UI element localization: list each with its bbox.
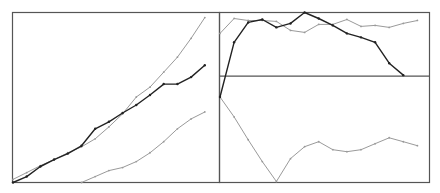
data-point-marker — [402, 141, 404, 143]
data-point-marker — [12, 181, 14, 183]
data-point-marker — [374, 143, 376, 145]
data-point-marker — [108, 170, 110, 172]
data-point-marker — [346, 151, 348, 153]
data-point-marker — [388, 137, 390, 139]
data-point-marker — [261, 18, 263, 20]
data-point-marker — [177, 56, 179, 58]
series-light-lower-line — [82, 112, 205, 183]
data-point-marker — [276, 21, 278, 23]
data-point-marker — [290, 29, 292, 31]
data-point-marker — [163, 71, 165, 73]
data-point-marker — [12, 179, 14, 181]
data-point-marker — [190, 37, 192, 39]
data-point-marker — [388, 27, 390, 29]
data-point-marker — [53, 158, 55, 160]
data-point-marker — [26, 175, 28, 177]
data-point-marker — [39, 165, 41, 167]
right-panel — [219, 11, 430, 182]
data-point-marker — [417, 145, 419, 147]
data-point-marker — [81, 182, 83, 184]
data-point-marker — [190, 76, 192, 78]
data-point-marker — [80, 145, 82, 147]
data-point-marker — [388, 62, 390, 64]
data-point-marker — [402, 23, 404, 25]
data-point-marker — [108, 121, 110, 123]
data-point-marker — [108, 126, 110, 128]
data-point-marker — [149, 86, 151, 88]
data-point-marker — [261, 161, 263, 163]
data-point-marker — [360, 36, 362, 38]
data-point-marker — [290, 158, 292, 160]
chart-container — [0, 0, 440, 193]
plot-frame — [220, 13, 430, 183]
data-point-marker — [135, 104, 137, 106]
data-point-marker — [149, 94, 151, 96]
data-point-marker — [26, 172, 28, 174]
series-light-lower-line — [220, 97, 417, 182]
data-point-marker — [247, 20, 249, 22]
left-panel — [12, 13, 220, 184]
data-point-marker — [360, 26, 362, 28]
data-point-marker — [332, 24, 334, 26]
data-point-marker — [318, 24, 320, 26]
data-point-marker — [204, 111, 206, 113]
data-point-marker — [233, 41, 235, 43]
data-point-marker — [163, 141, 165, 143]
data-point-marker — [276, 181, 278, 183]
data-point-marker — [346, 32, 348, 34]
series-light-upper-line — [13, 18, 205, 180]
data-point-marker — [247, 21, 249, 23]
data-point-marker — [417, 20, 419, 22]
data-point-marker — [163, 83, 165, 85]
data-point-marker — [135, 96, 137, 98]
data-point-marker — [204, 64, 206, 66]
series-light-upper-line — [220, 19, 417, 34]
data-point-marker — [402, 74, 404, 76]
data-point-marker — [289, 22, 291, 24]
chart-svg — [0, 0, 440, 193]
data-point-marker — [204, 17, 206, 19]
data-point-marker — [318, 141, 320, 143]
data-point-marker — [121, 112, 123, 114]
data-point-marker — [149, 152, 151, 154]
data-point-marker — [219, 96, 221, 98]
data-point-marker — [346, 19, 348, 21]
data-point-marker — [304, 146, 306, 148]
data-point-marker — [233, 116, 235, 118]
data-point-marker — [360, 149, 362, 151]
data-point-marker — [332, 149, 334, 151]
data-point-marker — [318, 17, 320, 19]
data-point-marker — [190, 118, 192, 120]
data-point-marker — [135, 161, 137, 163]
data-point-marker — [303, 11, 305, 13]
data-point-marker — [233, 18, 235, 20]
data-point-marker — [177, 128, 179, 130]
data-point-marker — [247, 139, 249, 141]
data-point-marker — [219, 32, 221, 34]
data-point-marker — [94, 138, 96, 140]
data-point-marker — [67, 152, 69, 154]
plot-frame — [13, 13, 220, 183]
data-point-marker — [374, 25, 376, 27]
data-point-marker — [94, 128, 96, 130]
data-point-marker — [176, 83, 178, 85]
data-point-marker — [122, 167, 124, 169]
data-point-marker — [275, 26, 277, 28]
data-point-marker — [374, 41, 376, 43]
data-point-marker — [94, 176, 96, 178]
data-point-marker — [304, 31, 306, 33]
